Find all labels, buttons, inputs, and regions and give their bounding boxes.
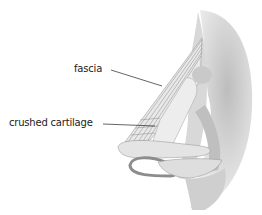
fascia-leader-line bbox=[111, 70, 162, 86]
upper-lateral-cartilage bbox=[192, 66, 212, 84]
nose-illustration bbox=[0, 0, 262, 215]
label-crushed-cartilage: crushed cartilage bbox=[9, 117, 93, 128]
nose-anatomy-diagram: fascia crushed cartilage bbox=[0, 0, 262, 215]
label-fascia: fascia bbox=[74, 63, 102, 74]
